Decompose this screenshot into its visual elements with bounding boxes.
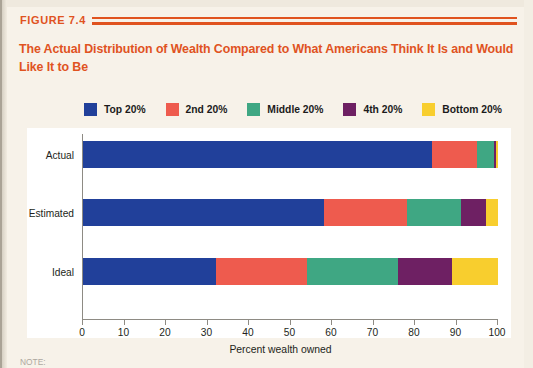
x-axis-tick-label: 30: [201, 327, 212, 338]
x-axis-tick: [248, 320, 249, 325]
plot-area: ActualEstimatedIdeal 0102030405060708090…: [27, 128, 511, 338]
legend-swatch-icon: [84, 103, 97, 116]
figure-note-text: NOTE:: [20, 359, 46, 367]
legend-label: Bottom 20%: [442, 104, 502, 115]
x-axis-tick-label: 40: [242, 327, 253, 338]
x-axis-tick: [414, 320, 415, 325]
bar-segment: [83, 199, 324, 226]
figure-number-label: FIGURE 7.4: [20, 14, 86, 26]
bar-row: Actual: [83, 141, 498, 168]
x-axis-tick-label: 70: [367, 327, 378, 338]
bar-segment: [452, 258, 498, 285]
page-gutter-edge: [0, 0, 2, 368]
bar-segment: [496, 141, 498, 168]
legend-swatch-icon: [343, 103, 356, 116]
bar-row: Estimated: [83, 199, 498, 226]
bar-row-label: Actual: [46, 149, 74, 160]
legend-label: Middle 20%: [267, 104, 323, 115]
x-axis-tick-label: 20: [159, 327, 170, 338]
figure-title: The Actual Distribution of Wealth Compar…: [19, 41, 519, 76]
x-axis-tick: [290, 320, 291, 325]
bar-segment: [407, 199, 461, 226]
bar-segment: [432, 141, 478, 168]
x-axis-title-text: Percent wealth owned: [229, 344, 331, 355]
chart-legend: Top 20%2nd 20%Middle 20%4th 20%Bottom 20…: [84, 103, 502, 116]
x-axis-tick-label: 0: [79, 327, 85, 338]
legend-label: 4th 20%: [363, 104, 402, 115]
legend-item: Bottom 20%: [422, 103, 502, 116]
bar-segment: [461, 199, 486, 226]
legend-item: Middle 20%: [247, 103, 323, 116]
x-axis-tick: [124, 320, 125, 325]
figure-rule-group: [92, 17, 517, 26]
legend-swatch-icon: [247, 103, 260, 116]
figure-rule-top: [92, 17, 517, 19]
x-axis-tick: [373, 320, 374, 325]
legend-item: Top 20%: [84, 103, 146, 116]
x-axis-tick: [331, 320, 332, 325]
legend-item: 4th 20%: [343, 103, 402, 116]
bar-segment: [307, 258, 398, 285]
x-axis-tick: [207, 320, 208, 325]
legend-item: 2nd 20%: [166, 103, 228, 116]
legend-label: 2nd 20%: [186, 104, 228, 115]
legend-swatch-icon: [166, 103, 179, 116]
bar-row: Ideal: [83, 258, 498, 285]
x-axis-tick-label: 50: [284, 327, 295, 338]
x-axis-tick-label: 10: [118, 327, 129, 338]
legend-swatch-icon: [422, 103, 435, 116]
bar-segment: [216, 258, 307, 285]
x-axis-tick: [165, 320, 166, 325]
x-axis-title: Percent wealth owned: [0, 344, 533, 355]
x-axis-tick-label: 100: [489, 327, 506, 338]
x-axis-tick: [82, 320, 83, 325]
bar-row-label: Estimated: [29, 207, 74, 218]
bar-segment: [477, 141, 494, 168]
x-axis-tick-label: 90: [450, 327, 461, 338]
legend-label: Top 20%: [104, 104, 146, 115]
x-axis-tick-label: 80: [408, 327, 419, 338]
bar-segment: [324, 199, 407, 226]
scan-edge-right: [524, 0, 533, 368]
bar-segment: [486, 199, 498, 226]
bar-segment: [83, 258, 216, 285]
x-axis-tick: [497, 320, 498, 325]
x-axis-tick-label: 60: [325, 327, 336, 338]
figure-note-clipped: NOTE:: [0, 359, 533, 368]
x-axis-tick: [456, 320, 457, 325]
bar-segment: [398, 258, 452, 285]
figure-page: FIGURE 7.4 The Actual Distribution of We…: [0, 0, 533, 368]
figure-rule-bottom: [92, 22, 517, 25]
bar-row-label: Ideal: [52, 266, 74, 277]
scan-edge-top: [0, 0, 533, 7]
bar-segment: [83, 141, 432, 168]
